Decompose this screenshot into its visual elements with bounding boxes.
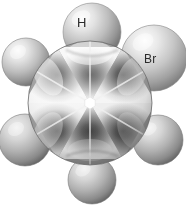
molecule-illustration	[0, 0, 186, 207]
molecular-model-figure: H Br	[0, 0, 186, 207]
atom-label-hydrogen: H	[77, 15, 87, 30]
atom-label-bromine: Br	[144, 52, 156, 66]
